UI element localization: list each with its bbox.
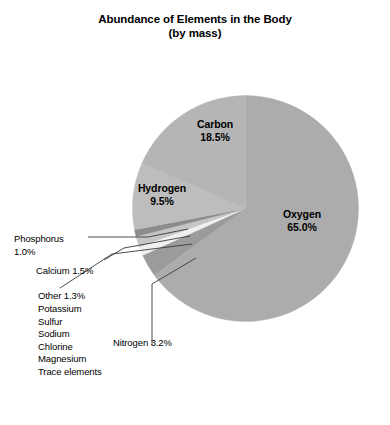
slice-label-carbon: Carbon 18.5%: [165, 118, 265, 143]
other-element-item: Magnesium: [38, 353, 102, 366]
other-elements-list: PotassiumSulfurSodiumChlorineMagnesiumTr…: [38, 303, 102, 379]
other-element-item: Chlorine: [38, 341, 102, 354]
slice-label-oxygen-name: Oxygen: [283, 208, 321, 220]
slice-label-hydrogen-value: 9.5%: [112, 195, 212, 208]
callout-label-nitrogen: Nitrogen 3.2%: [113, 337, 172, 350]
slice-label-hydrogen: Hydrogen 9.5%: [112, 182, 212, 207]
pie-chart-figure: Abundance of Elements in the Body (by ma…: [0, 0, 390, 425]
callout-label-other: Other 1.3%: [38, 290, 85, 303]
slice-label-carbon-name: Carbon: [197, 118, 233, 130]
slice-label-oxygen-value: 65.0%: [252, 221, 352, 234]
other-element-item: Sodium: [38, 328, 102, 341]
slice-label-hydrogen-name: Hydrogen: [138, 182, 186, 194]
slice-label-oxygen: Oxygen 65.0%: [252, 208, 352, 233]
callout-label-calcium: Calcium 1.5%: [36, 265, 93, 278]
callout-label-phosphorus-value: 1.0%: [14, 246, 35, 257]
callout-label-phosphorus-name: Phosphorus: [14, 233, 64, 244]
other-element-item: Trace elements: [38, 366, 102, 379]
other-element-item: Potassium: [38, 303, 102, 316]
slice-label-carbon-value: 18.5%: [165, 131, 265, 144]
callout-label-phosphorus: Phosphorus 1.0%: [14, 233, 64, 258]
other-element-item: Sulfur: [38, 316, 102, 329]
